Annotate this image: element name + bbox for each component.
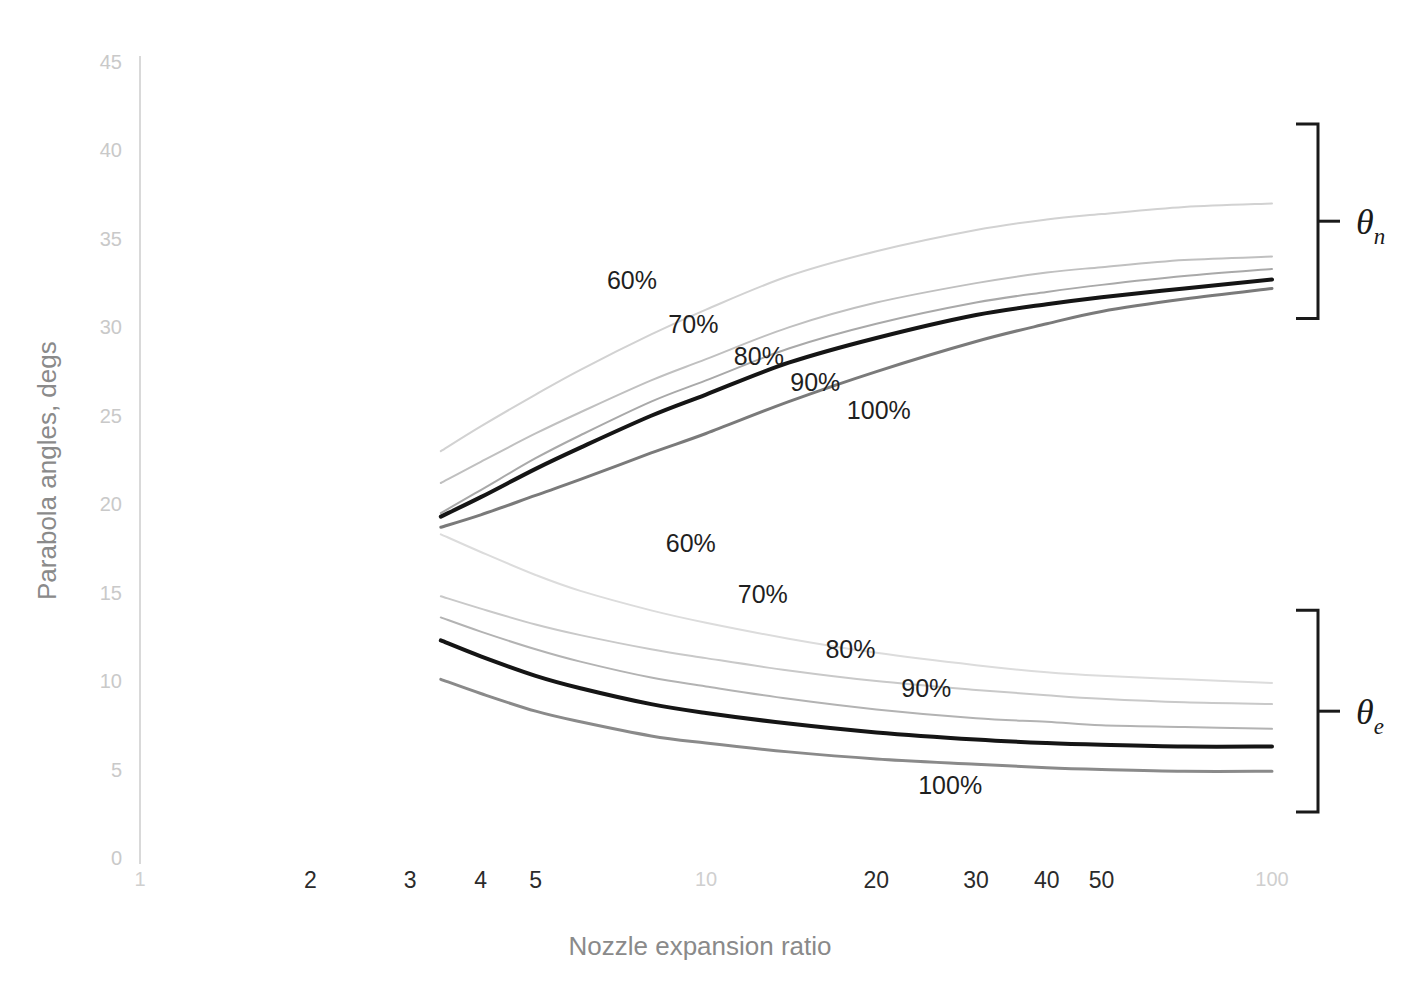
curve-label-theta_e-60%: 60% bbox=[666, 529, 716, 557]
curve-label-theta_n-100%: 100% bbox=[847, 396, 911, 424]
bracket-theta_n bbox=[1296, 124, 1318, 319]
y-tick-label: 20 bbox=[100, 493, 122, 515]
x-tick-label: 50 bbox=[1089, 867, 1115, 893]
x-tick-label: 40 bbox=[1034, 867, 1060, 893]
x-tick-label: 30 bbox=[963, 867, 989, 893]
x-tick-labels: 123451020304050100 bbox=[134, 867, 1288, 893]
curve-label-theta_e-70%: 70% bbox=[738, 580, 788, 608]
x-tick-label: 10 bbox=[695, 868, 717, 890]
curve-label-theta_n-70%: 70% bbox=[668, 310, 718, 338]
bracket-theta_e bbox=[1296, 610, 1318, 812]
y-tick-label: 0 bbox=[111, 847, 122, 869]
x-tick-label: 1 bbox=[134, 868, 145, 890]
x-tick-label: 2 bbox=[304, 867, 317, 893]
y-tick-label: 40 bbox=[100, 139, 122, 161]
y-tick-label: 15 bbox=[100, 582, 122, 604]
curve-series-group bbox=[441, 204, 1272, 772]
curve-label-theta_e-90%: 90% bbox=[901, 674, 951, 702]
theta-glyph: θ bbox=[1356, 202, 1374, 242]
bracket-label-theta_n: θn bbox=[1356, 202, 1385, 249]
group-brackets: θnθe bbox=[1296, 124, 1385, 812]
theta-subscript: n bbox=[1374, 224, 1386, 249]
bracket-label-theta_e: θe bbox=[1356, 692, 1384, 739]
theta-subscript: e bbox=[1374, 714, 1384, 739]
y-tick-label: 35 bbox=[100, 228, 122, 250]
curve-label-theta_n-80%: 80% bbox=[734, 342, 784, 370]
y-tick-label: 45 bbox=[100, 51, 122, 73]
y-tick-labels: 051015202530354045 bbox=[100, 51, 122, 869]
x-tick-label: 20 bbox=[864, 867, 890, 893]
theta-glyph: θ bbox=[1356, 692, 1374, 732]
curve-theta_e-80% bbox=[441, 617, 1272, 728]
y-tick-label: 25 bbox=[100, 405, 122, 427]
chart-container: 051015202530354045 123451020304050100 60… bbox=[0, 0, 1427, 1006]
x-axis-title: Nozzle expansion ratio bbox=[568, 931, 831, 961]
x-tick-label: 100 bbox=[1255, 868, 1288, 890]
curve-theta_e-100% bbox=[441, 679, 1272, 771]
x-tick-label: 5 bbox=[529, 867, 542, 893]
y-tick-label: 30 bbox=[100, 316, 122, 338]
curve-label-theta_n-90%: 90% bbox=[790, 368, 840, 396]
y-axis-title: Parabola angles, degs bbox=[32, 341, 62, 600]
y-tick-label: 5 bbox=[111, 759, 122, 781]
curve-label-theta_e-100%: 100% bbox=[918, 771, 982, 799]
x-tick-label: 3 bbox=[404, 867, 417, 893]
curve-label-theta_n-60%: 60% bbox=[607, 266, 657, 294]
y-tick-label: 10 bbox=[100, 670, 122, 692]
x-tick-label: 4 bbox=[474, 867, 487, 893]
curve-label-theta_e-80%: 80% bbox=[825, 635, 875, 663]
parabola-angles-chart: 051015202530354045 123451020304050100 60… bbox=[0, 0, 1427, 1006]
